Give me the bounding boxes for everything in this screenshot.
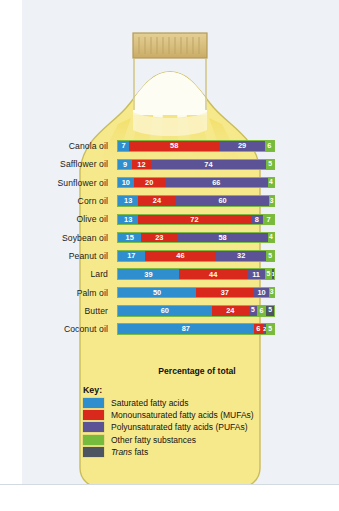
row-label: Canola oil [0, 141, 117, 151]
stacked-bar: 87625 [117, 323, 275, 335]
row-label: Coconut oil [0, 324, 117, 334]
segment-value: 29 [238, 142, 246, 149]
segment-value: 7 [121, 142, 125, 149]
segment-value: 23 [155, 234, 163, 241]
legend-item-other[interactable]: Other fatty substances [83, 435, 293, 445]
segment-value: 24 [153, 197, 161, 204]
bar-segment-mufa: 72 [138, 215, 250, 225]
chart-row: Olive oil137287 [0, 210, 339, 228]
segment-value: 6 [259, 307, 263, 314]
segment-value: 58 [170, 142, 178, 149]
segment-value: 5 [268, 326, 272, 333]
stacked-bar: 39441151 [117, 268, 275, 280]
bar-segment-other: 7 [263, 215, 274, 225]
oil-fat-composition-figure: Canola oil758296Safflower oil912745Sunfl… [0, 0, 339, 511]
bar-segment-other: 6 [257, 306, 266, 316]
bar-segment-other: 5 [266, 160, 274, 170]
segment-value: 10 [122, 179, 130, 186]
segment-value: 1 [272, 271, 274, 277]
bar-segment-pufa: 10 [254, 288, 270, 298]
bar-segment-pufa: 5 [249, 306, 257, 316]
legend-swatch-pufa-icon [83, 422, 104, 432]
legend-title: Key: [83, 385, 293, 395]
axis-caption: Percentage of total [108, 366, 286, 376]
legend-label: Polyunsaturated fatty acids (PUFAs) [111, 422, 248, 432]
segment-value: 3 [270, 289, 274, 296]
legend-label: Saturated fatty acids [111, 398, 189, 408]
segment-value: 66 [212, 179, 220, 186]
segment-value: 13 [124, 216, 132, 223]
legend: Key: Saturated fatty acidsMonounsaturate… [83, 385, 293, 457]
stacked-bar: 1020664 [117, 177, 275, 189]
legend-swatch-sat-icon [83, 398, 104, 408]
bar-segment-pufa: 74 [151, 160, 266, 170]
bar-segment-mufa: 23 [141, 233, 177, 243]
segment-value: 3 [270, 198, 274, 205]
page-bottom-margin [0, 485, 339, 511]
legend-swatch-trans-icon [83, 447, 104, 457]
bar-segment-mufa: 6 [254, 324, 263, 334]
chart-row: Safflower oil912745 [0, 155, 339, 173]
legend-label: Other fatty substances [111, 435, 196, 445]
bar-segment-pufa: 58 [177, 233, 267, 243]
bar-segment-sat: 15 [118, 233, 141, 243]
legend-items: Saturated fatty acidsMonounsaturated fat… [83, 398, 293, 457]
segment-value: 44 [209, 271, 217, 278]
bar-segment-other: 5 [266, 324, 274, 334]
legend-item-trans[interactable]: Trans fats [83, 447, 293, 457]
chart-row: Coconut oil87625 [0, 320, 339, 338]
bar-segment-sat: 39 [118, 269, 179, 279]
segment-value: 87 [182, 325, 190, 332]
row-label: Olive oil [0, 214, 117, 224]
stacked-bar: 912745 [117, 159, 275, 171]
stacked-bar: 137287 [117, 214, 275, 226]
bar-segment-trans: 1 [272, 269, 274, 279]
segment-value: 46 [176, 252, 184, 259]
legend-item-pufa[interactable]: Polyunsaturated fatty acids (PUFAs) [83, 422, 293, 432]
bar-segment-other: 4 [268, 233, 274, 243]
legend-item-mufa[interactable]: Monounsaturated fatty acids (MUFAs) [83, 410, 293, 420]
row-label: Lard [0, 269, 117, 279]
legend-label: Monounsaturated fatty acids (MUFAs) [111, 410, 254, 420]
bar-segment-other: 3 [269, 196, 274, 206]
chart-row: Lard39441151 [0, 265, 339, 283]
bar-segment-sat: 10 [118, 178, 134, 188]
stacked-bar: 758296 [117, 140, 275, 152]
segment-value: 15 [126, 234, 134, 241]
bar-segment-pufa: 66 [165, 178, 268, 188]
bar-segment-pufa: 60 [176, 196, 270, 206]
bar-segment-other: 3 [269, 288, 274, 298]
bar-segment-mufa: 58 [129, 141, 219, 151]
segment-value: 5 [268, 307, 272, 314]
segment-value: 17 [127, 252, 135, 259]
segment-value: 5 [268, 253, 272, 260]
bar-segment-mufa: 20 [134, 178, 165, 188]
row-label: Corn oil [0, 196, 117, 206]
legend-swatch-other-icon [83, 435, 104, 445]
row-label: Safflower oil [0, 159, 117, 169]
segment-value: 11 [252, 271, 260, 278]
legend-label: Trans fats [111, 447, 148, 457]
segment-value: 60 [161, 307, 169, 314]
bar-segment-pufa: 8 [251, 215, 263, 225]
segment-value: 50 [153, 289, 161, 296]
bar-segment-mufa: 37 [196, 288, 254, 298]
bar-segment-other: 6 [265, 141, 274, 151]
bar-segment-sat: 50 [118, 288, 196, 298]
segment-value: 4 [269, 234, 273, 241]
bar-segment-sat: 17 [118, 251, 145, 261]
segment-value: 58 [218, 234, 226, 241]
bar-segment-pufa: 29 [219, 141, 264, 151]
legend-item-sat[interactable]: Saturated fatty acids [83, 398, 293, 408]
bar-segment-sat: 7 [118, 141, 129, 151]
row-label: Butter [0, 306, 117, 316]
stacked-bar: 1523584 [117, 232, 275, 244]
bar-segment-pufa: 32 [216, 251, 266, 261]
bar-segment-sat: 87 [118, 324, 254, 334]
segment-value: 72 [190, 216, 198, 223]
bar-segment-other: 4 [268, 178, 274, 188]
bar-segment-sat: 9 [118, 160, 132, 170]
segment-value: 7 [266, 216, 270, 223]
segment-value: 24 [226, 307, 234, 314]
segment-value: 9 [123, 161, 127, 168]
